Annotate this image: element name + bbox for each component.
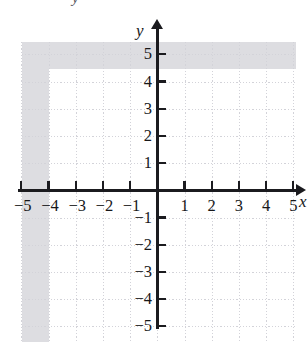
x-axis-tick xyxy=(265,181,267,190)
y-axis-arrow-icon xyxy=(151,19,163,29)
x-axis-tick xyxy=(183,181,185,190)
y-axis-tick-label: 3 xyxy=(122,101,152,118)
x-axis-tick xyxy=(47,181,49,190)
grid-line-vertical xyxy=(239,42,240,342)
y-axis-tick xyxy=(157,108,166,110)
y-axis-tick xyxy=(157,216,166,218)
y-axis-tick-label: −1 xyxy=(122,210,152,227)
y-axis-tick-label: 4 xyxy=(122,74,152,91)
grid-line-vertical xyxy=(49,42,50,342)
y-axis-tick xyxy=(157,271,166,273)
x-axis-tick-label: −5 xyxy=(8,198,38,215)
x-axis-tick-label: −2 xyxy=(89,198,119,215)
grid-line-vertical xyxy=(76,42,77,342)
grid-line-vertical xyxy=(21,42,22,342)
clipped-glyph-remnant: y xyxy=(72,0,79,6)
x-axis-tick-label: 4 xyxy=(251,198,281,215)
x-axis-tick xyxy=(238,181,240,190)
y-axis-tick xyxy=(157,244,166,246)
grid-line-vertical xyxy=(212,42,213,342)
y-axis-tick-label: 1 xyxy=(122,155,152,172)
y-axis-tick xyxy=(157,325,166,327)
x-axis-tick xyxy=(20,181,22,190)
x-axis-tick xyxy=(129,181,131,190)
grid-line-vertical xyxy=(185,42,186,342)
grid-line-vertical xyxy=(103,42,104,342)
y-axis-tick-label: −4 xyxy=(122,291,152,308)
x-axis-tick xyxy=(102,181,104,190)
y-axis-tick xyxy=(157,298,166,300)
x-axis-line xyxy=(18,189,301,192)
x-axis-tick-label: 3 xyxy=(224,198,254,215)
x-axis-tick-label: −4 xyxy=(35,198,65,215)
y-axis-tick xyxy=(157,80,166,82)
grid-line-vertical xyxy=(266,42,267,342)
y-axis-tick-label: −3 xyxy=(122,264,152,281)
grid-line-vertical xyxy=(293,42,294,342)
x-axis-tick xyxy=(75,181,77,190)
y-axis-tick-label: 2 xyxy=(122,128,152,145)
y-axis-tick-label: −2 xyxy=(122,237,152,254)
y-axis-tick-label: −5 xyxy=(122,318,152,335)
y-axis-label: y xyxy=(136,22,144,39)
y-axis-tick xyxy=(157,162,166,164)
x-axis-tick-label: 1 xyxy=(170,198,200,215)
x-axis-tick-label: 2 xyxy=(197,198,227,215)
x-axis-tick-label: −3 xyxy=(62,198,92,215)
x-axis-tick xyxy=(211,181,213,190)
y-axis-tick xyxy=(157,135,166,137)
x-axis-tick xyxy=(292,181,294,190)
y-axis-tick xyxy=(157,53,166,55)
y-axis-line xyxy=(156,26,159,329)
x-axis-label: x xyxy=(299,193,307,210)
y-axis-tick-label: 5 xyxy=(122,46,152,63)
